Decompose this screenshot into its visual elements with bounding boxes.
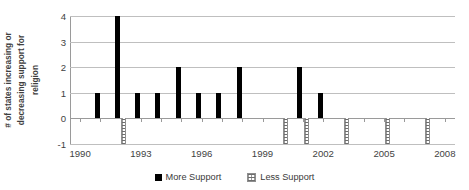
- bar: [344, 118, 349, 144]
- more-support-swatch-icon: [155, 174, 162, 181]
- x-tick-mark: [404, 118, 405, 122]
- bar: [155, 93, 160, 119]
- legend-label-less-support: Less Support: [260, 172, 314, 182]
- bar: [425, 118, 430, 144]
- bar: [237, 67, 242, 118]
- gridline: [70, 93, 455, 94]
- plot-area: [70, 16, 455, 144]
- gridline: [70, 16, 455, 17]
- legend-item-more-support: More Support: [155, 172, 222, 182]
- y-axis-line: [70, 16, 71, 144]
- gridline: [70, 67, 455, 68]
- y-axis-title: # of states increasing or decreasing sup…: [2, 5, 44, 155]
- legend-label-more-support: More Support: [166, 172, 222, 182]
- x-tick-mark: [181, 118, 182, 122]
- x-tick-label: 2005: [373, 148, 394, 159]
- bar: [135, 93, 140, 119]
- bar: [318, 93, 323, 119]
- plot-bottom-border: [70, 144, 455, 145]
- gridline: [70, 42, 455, 43]
- y-tick-label: 0: [40, 113, 66, 124]
- x-tick-label: 1993: [130, 148, 151, 159]
- x-tick-label: 1990: [69, 148, 90, 159]
- bar: [115, 16, 120, 118]
- bar: [196, 93, 201, 119]
- y-tick-label: 1: [40, 87, 66, 98]
- x-tick-mark: [80, 118, 81, 122]
- bar: [216, 93, 221, 119]
- chart-legend: More Support Less Support: [0, 168, 469, 186]
- y-tick-label: 3: [40, 36, 66, 47]
- bar: [176, 67, 181, 118]
- x-tick-mark: [242, 118, 243, 122]
- x-axis-tick-labels: 1990199319961999200220052008: [70, 148, 455, 162]
- bar: [385, 118, 390, 144]
- y-tick-label: 2: [40, 62, 66, 73]
- bar: [121, 118, 126, 144]
- x-tick-mark: [161, 118, 162, 122]
- bar: [304, 118, 309, 144]
- x-tick-mark: [141, 118, 142, 122]
- x-tick-mark: [263, 118, 264, 122]
- x-tick-label: 2002: [313, 148, 334, 159]
- x-tick-mark: [364, 118, 365, 122]
- y-tick-label: -1: [40, 139, 66, 150]
- x-tick-mark: [100, 118, 101, 122]
- bar: [297, 67, 302, 118]
- x-tick-label: 1996: [191, 148, 212, 159]
- x-tick-mark: [445, 118, 446, 122]
- x-tick-mark: [222, 118, 223, 122]
- x-tick-mark: [202, 118, 203, 122]
- legend-item-less-support: Less Support: [247, 172, 314, 182]
- bar-chart: # of states increasing or decreasing sup…: [0, 0, 469, 190]
- less-support-swatch-icon: [247, 173, 256, 182]
- y-tick-label: 4: [40, 11, 66, 22]
- x-tick-label: 1999: [252, 148, 273, 159]
- bar: [283, 118, 288, 144]
- x-tick-label: 2008: [434, 148, 455, 159]
- x-tick-mark: [323, 118, 324, 122]
- bar: [95, 93, 100, 119]
- y-axis-tick-labels: 43210-1: [40, 16, 66, 144]
